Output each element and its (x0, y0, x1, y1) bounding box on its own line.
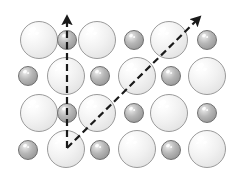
large-sphere (118, 57, 156, 95)
sphere-highlight (66, 36, 69, 38)
sphere-highlight (206, 109, 209, 111)
sphere-highlight (27, 146, 30, 148)
sphere-highlight (93, 31, 98, 35)
sphere-highlight (93, 104, 98, 108)
small-sphere (18, 140, 38, 160)
sphere-highlight (133, 109, 136, 111)
small-sphere (124, 103, 144, 123)
sphere-highlight (133, 67, 138, 71)
small-sphere (57, 103, 77, 123)
crystal-lattice-figure (0, 0, 239, 175)
sphere-highlight (206, 36, 209, 38)
sphere-highlight (62, 67, 67, 71)
large-sphere (20, 21, 58, 59)
large-sphere (150, 21, 188, 59)
sphere-highlight (165, 104, 170, 108)
sphere-highlight (35, 104, 40, 108)
small-sphere (161, 140, 181, 160)
large-sphere (78, 94, 116, 132)
sphere-highlight (27, 72, 30, 74)
sphere-highlight (203, 67, 208, 71)
large-sphere (188, 130, 226, 168)
small-sphere (90, 66, 110, 86)
sphere-highlight (165, 31, 170, 35)
small-sphere (161, 66, 181, 86)
large-sphere (188, 57, 226, 95)
sphere-highlight (99, 72, 102, 74)
sphere-highlight (133, 140, 138, 144)
small-sphere (197, 30, 217, 50)
sphere-highlight (133, 36, 136, 38)
sphere-highlight (170, 72, 173, 74)
sphere-highlight (62, 140, 67, 144)
large-sphere (118, 130, 156, 168)
large-sphere (47, 130, 85, 168)
sphere-highlight (66, 109, 69, 111)
large-sphere (20, 94, 58, 132)
small-sphere (18, 66, 38, 86)
lattice-sphere-layer (0, 0, 239, 175)
sphere-highlight (35, 31, 40, 35)
small-sphere (90, 140, 110, 160)
sphere-highlight (203, 140, 208, 144)
small-sphere (197, 103, 217, 123)
small-sphere (57, 30, 77, 50)
sphere-highlight (170, 146, 173, 148)
large-sphere (47, 57, 85, 95)
large-sphere (150, 94, 188, 132)
sphere-highlight (99, 146, 102, 148)
large-sphere (78, 21, 116, 59)
small-sphere (124, 30, 144, 50)
